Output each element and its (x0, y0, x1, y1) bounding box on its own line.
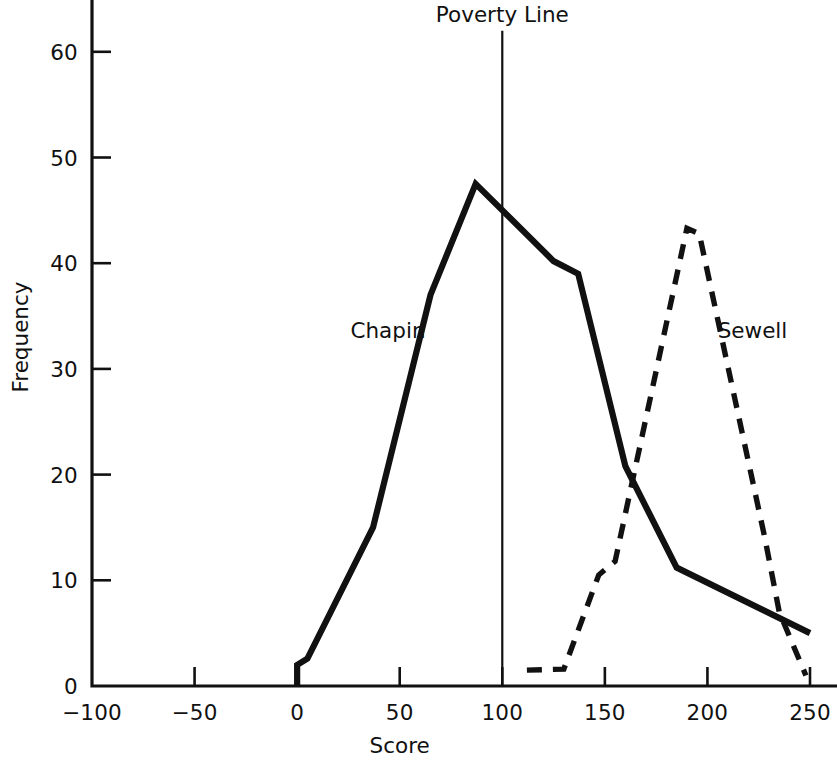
x-tick-label: 100 (481, 700, 523, 725)
series-label-chapin: Chapin (350, 318, 425, 343)
y-tick-label: 20 (0, 462, 78, 487)
y-tick-label: 0 (0, 674, 78, 699)
series-group (297, 184, 810, 686)
x-tick-label: −50 (172, 700, 218, 725)
y-tick-label: 10 (0, 568, 78, 593)
x-axis-title: Score (370, 733, 430, 758)
x-tick-label: 200 (687, 700, 729, 725)
chart-figure: −100−50050100150200250 0102030405060 Fre… (0, 0, 837, 769)
series-label-sewell: Sewell (718, 318, 788, 343)
poverty-line-label: Poverty Line (436, 2, 569, 27)
x-tick-label: −100 (62, 700, 122, 725)
y-axis-title: Frequency (8, 282, 33, 393)
x-tick-label: 0 (290, 700, 304, 725)
chart-canvas (0, 0, 837, 769)
y-tick-label: 40 (0, 251, 78, 276)
y-tick-label: 50 (0, 145, 78, 170)
series-line-chapin (297, 184, 810, 686)
x-tick-label: 150 (584, 700, 626, 725)
y-axis-ticks (92, 52, 111, 581)
x-tick-label: 250 (789, 700, 831, 725)
x-tick-label: 50 (386, 700, 414, 725)
y-tick-label: 60 (0, 39, 78, 64)
